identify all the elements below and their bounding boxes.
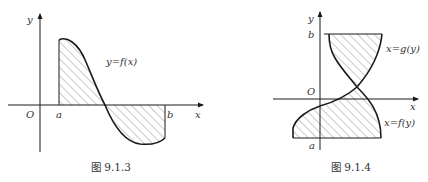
curve-f-label: x=f(y) [384,117,415,128]
y-axis-label: y [307,13,314,24]
diagram-canvas: y x O a b y=f(x) 图 9.1.3 y x O b a x=g(y… [0,0,428,182]
origin-label: O [26,109,34,120]
a-label: a [56,109,62,120]
curve-label: y=f(x) [105,56,137,67]
figure-caption: 图 9.1.3 [91,161,131,173]
positive-area-region [59,39,105,105]
x-axis-label: x [195,109,201,120]
figure-9-1-4: y x O b a x=g(y) x=f(y) 图 9.1.4 [273,12,420,173]
figure-9-1-3: y x O a b y=f(x) 图 9.1.3 [8,14,203,173]
origin-label: O [307,86,315,97]
y-axis-label: y [26,14,33,25]
b-label: b [308,29,314,40]
a-label: a [309,140,315,151]
curve-g-label: x=g(y) [386,43,420,54]
figure-caption: 图 9.1.4 [331,161,371,173]
negative-area-region [105,105,165,144]
b-label: b [167,109,173,120]
x-axis-label: x [410,101,416,112]
